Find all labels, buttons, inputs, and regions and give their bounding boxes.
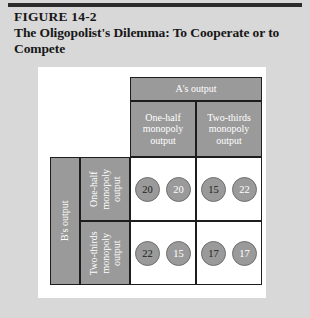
payoff-pair: 20 20 (131, 177, 195, 202)
row-header-two-thirds: Two-thirds monopoly output (80, 221, 130, 285)
column-header-one-half-text: One-half monopoly output (131, 112, 195, 147)
payoff-pair: 15 22 (197, 177, 261, 202)
payoff-cell-row0-col1: 15 22 (196, 157, 262, 221)
payoff-cell-row1-col1: 17 17 (196, 221, 262, 285)
payoff-cell-row0-col0: 20 20 (130, 157, 196, 221)
row-header-one-half-text: One-half monopoly output (88, 165, 123, 213)
column-axis-label-text: A's output (176, 83, 217, 95)
column-header-two-thirds-text: Two-thirds monopoly output (197, 112, 261, 147)
payoff-pair: 17 17 (197, 241, 261, 266)
payoff-matrix-panel: A's output One-half monopoly output Two-… (38, 67, 266, 298)
figure-number: FIGURE 14-2 (14, 9, 300, 24)
payoff-circle-b: 20 (135, 177, 160, 202)
figure-title: The Oligopolist's Dilemma: To Cooperate … (14, 25, 300, 56)
payoff-circle-a: 17 (232, 241, 257, 266)
column-header-two-thirds: Two-thirds monopoly output (196, 101, 262, 157)
payoff-circle-a: 20 (166, 177, 191, 202)
payoff-cell-row1-col0: 22 15 (130, 221, 196, 285)
payoff-circle-b: 15 (201, 177, 226, 202)
payoff-pair: 22 15 (131, 241, 195, 266)
column-header-one-half: One-half monopoly output (130, 101, 196, 157)
payoff-circle-b: 22 (135, 241, 160, 266)
row-header-two-thirds-text: Two-thirds monopoly output (88, 229, 123, 277)
column-axis-label-a-output: A's output (130, 77, 262, 101)
payoff-circle-b: 17 (201, 241, 226, 266)
figure-caption: FIGURE 14-2 The Oligopolist's Dilemma: T… (14, 9, 300, 56)
payoff-circle-a: 15 (166, 241, 191, 266)
row-axis-label-b-output: B's output (50, 157, 80, 285)
row-header-one-half: One-half monopoly output (80, 157, 130, 221)
payoff-circle-a: 22 (232, 177, 257, 202)
top-divider-rule (8, 3, 302, 7)
row-axis-label-text: B's output (59, 201, 71, 241)
